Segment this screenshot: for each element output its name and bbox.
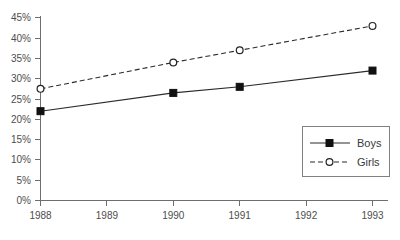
- x-tick-label-1993: 1993: [361, 210, 384, 221]
- data-point-girls-1993: [369, 23, 376, 30]
- y-tick-label-45: 45%: [11, 12, 31, 23]
- x-tick-label-1991: 1991: [229, 210, 252, 221]
- x-tick-label-1992: 1992: [295, 210, 318, 221]
- data-point-girls-1990: [170, 59, 177, 66]
- legend-girls-label: Girls: [357, 156, 380, 168]
- data-point-boys-1993: [369, 67, 376, 74]
- x-tick-label-1988: 1988: [29, 210, 52, 221]
- x-tick-label-1990: 1990: [162, 210, 185, 221]
- line-chart: 0% 5% 10% 15% 20% 25% 30% 35% 40% 45% 19…: [0, 0, 400, 240]
- legend-girls-marker-icon: [326, 159, 333, 166]
- legend-box: [303, 127, 390, 177]
- y-tick-label-10: 10%: [11, 154, 31, 165]
- y-tick-label-30: 30%: [11, 73, 31, 84]
- data-point-girls-1988: [37, 85, 44, 92]
- series-layer: [37, 23, 376, 115]
- legend-boys-label: Boys: [357, 137, 382, 149]
- data-point-boys-1991: [236, 83, 243, 90]
- x-tick-label-1989: 1989: [96, 210, 119, 221]
- series-girls: [37, 23, 376, 93]
- data-point-girls-1991: [236, 47, 243, 54]
- legend-boys-marker-icon: [326, 140, 333, 147]
- series-boys: [37, 67, 376, 115]
- y-tick-label-35: 35%: [11, 53, 31, 64]
- series-line-boys: [41, 71, 373, 112]
- y-tick-label-40: 40%: [11, 33, 31, 44]
- chart-canvas: 0% 5% 10% 15% 20% 25% 30% 35% 40% 45% 19…: [0, 0, 400, 240]
- series-line-girls: [41, 26, 373, 89]
- y-tick-label-15: 15%: [11, 134, 31, 145]
- y-tick-label-20: 20%: [11, 114, 31, 125]
- y-tick-label-25: 25%: [11, 94, 31, 105]
- y-tick-label-5: 5%: [17, 175, 32, 186]
- y-tick-label-0: 0%: [17, 195, 32, 206]
- chart-legend: Boys Girls: [303, 127, 390, 177]
- data-point-boys-1988: [37, 108, 44, 115]
- data-point-boys-1990: [170, 89, 177, 96]
